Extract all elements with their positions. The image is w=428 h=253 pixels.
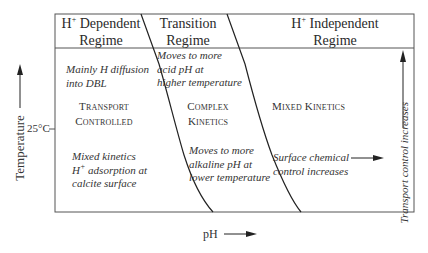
header-h-independent: H+ Independent Regime (260, 15, 410, 49)
y-tick-label: 25°C (27, 122, 50, 134)
dependent-center-label: Transport Controlled (64, 99, 144, 129)
ph-arrow-head (246, 231, 257, 237)
transition-top-note: Moves to more acid pH at higher temperat… (157, 49, 242, 90)
header-h-dependent: H+ Dependent Regime (56, 15, 146, 49)
right-axis-label: Transport control increases (398, 98, 412, 228)
temperature-arrow-head (17, 64, 23, 75)
header-transition: Transition Regime (148, 15, 228, 49)
dependent-bottom-note: Mixed kinetics H+ adsorption at calcite … (72, 150, 147, 191)
transport-arrow-head (400, 50, 406, 62)
surface-arrow-head (373, 155, 384, 161)
y-axis-label: Temperature (12, 108, 28, 188)
transition-bottom-note: Moves to more alkaline pH at lower tempe… (189, 144, 270, 185)
dependent-top-note: Mainly H diffusion into DBL (66, 63, 149, 90)
transition-center-label: Complex Kinetics (168, 99, 248, 129)
x-axis-label: pH (203, 227, 218, 242)
independent-center-label: Mixed Kinetics (272, 99, 362, 114)
independent-bottom-note: Surface chemical control increases (273, 151, 349, 178)
